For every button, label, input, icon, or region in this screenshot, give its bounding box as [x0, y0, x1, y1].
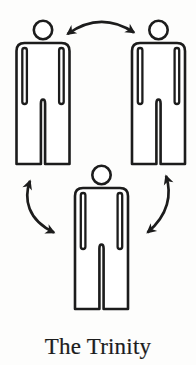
figure-caption: The Trinity: [0, 334, 196, 360]
curved-double-arrow-icon-top: [68, 22, 135, 34]
curved-double-arrow-icon-left: [27, 181, 54, 233]
curved-double-arrow-icon-right: [148, 176, 169, 233]
person-outline-icon-top-right: [132, 21, 185, 164]
trinity-diagram: The Trinity: [0, 0, 196, 365]
person-outline-icon-bottom-center: [75, 166, 128, 309]
trinity-diagram-graphic: [0, 0, 196, 330]
person-outline-icon-top-left: [17, 21, 70, 164]
